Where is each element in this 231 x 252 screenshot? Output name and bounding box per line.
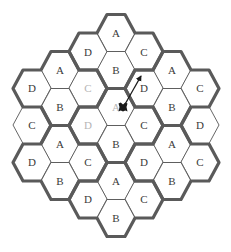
hex-cluster-diagram: ADCBADCBADCBADCBCDADCBADCBADCB [0,0,231,252]
hex-label: A [112,27,120,39]
hex-label: D [140,82,148,94]
hex-label: A [56,138,64,150]
hex-label: C [84,156,91,168]
hex-label: D [140,156,148,168]
hex-label: B [112,64,119,76]
hex-label: B [56,101,63,113]
hex-label: D [28,82,36,94]
hex-label: C [28,119,35,131]
hex-label: D [84,46,92,58]
hex-label: C [140,119,147,131]
hex-label: B [168,175,175,187]
hex-label: C [196,82,203,94]
hex-label: D [84,119,92,131]
hex-label: B [56,175,63,187]
hex-label: B [112,138,119,150]
hex-label: D [196,119,204,131]
hex-label: B [112,212,119,224]
hex-label: B [168,101,175,113]
hex-label: D [28,156,36,168]
hex-label: A [168,138,176,150]
hex-label: A [112,175,120,187]
hex-label: C [196,156,203,168]
hex-cells [13,15,219,237]
hex-label: C [84,82,91,94]
hex-label: A [56,64,64,76]
hex-label: C [140,193,147,205]
hex-label: D [84,193,92,205]
hex-label: C [140,46,147,58]
hex-label: A [168,64,176,76]
